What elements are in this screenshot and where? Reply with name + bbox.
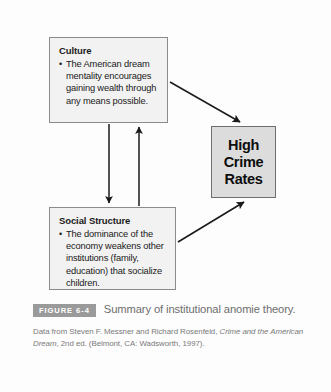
figure-page: Culture • The American dream mentality e… (0, 0, 331, 392)
bullet-icon: • (59, 228, 66, 289)
node-high-crime-rates-label: High Crime Rates (212, 137, 275, 188)
node-high-crime-rates: High Crime Rates (211, 126, 276, 198)
figure-caption: Summary of institutional anomie theory. (104, 302, 296, 316)
node-social-structure-bullet-text: The dominance of the economy weakens oth… (66, 228, 169, 289)
caption-row: FIGURE 6-4 Summary of institutional anom… (0, 296, 331, 317)
node-social-structure: Social Structure • The dominance of the … (49, 207, 176, 290)
figure-source-note: Data from Steven F. Messner and Richard … (0, 317, 331, 349)
source-suffix: , 2nd ed. (Belmont, CA: Wadsworth, 1997)… (56, 339, 204, 348)
diagram-canvas: Culture • The American dream mentality e… (0, 0, 331, 296)
caption-block: FIGURE 6-4 Summary of institutional anom… (0, 296, 331, 349)
node-social-structure-bullet: • The dominance of the economy weakens o… (59, 228, 169, 289)
node-culture-bullet-text: The American dream mentality encourages … (66, 58, 160, 107)
arrow-social-to-crime (178, 202, 244, 242)
node-culture-title: Culture (59, 45, 160, 57)
node-social-structure-title: Social Structure (59, 215, 169, 227)
arrow-culture-to-crime (170, 82, 240, 122)
bullet-icon: • (59, 58, 66, 107)
source-prefix: Data from Steven F. Messner and Richard … (33, 327, 219, 336)
node-culture: Culture • The American dream mentality e… (49, 37, 168, 123)
figure-number-badge: FIGURE 6-4 (33, 304, 96, 317)
node-culture-bullet: • The American dream mentality encourage… (59, 58, 160, 107)
